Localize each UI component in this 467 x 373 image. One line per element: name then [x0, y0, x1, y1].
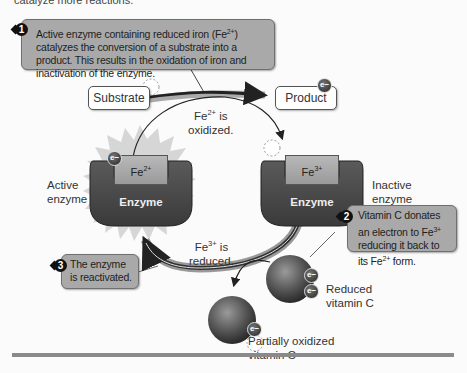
reduced-vitamin-c-label: Reducedvitamin C [326, 282, 374, 310]
callout-3-text: The enzyme is reactivated. [70, 258, 132, 283]
lost-electron-site [264, 140, 280, 156]
callout2-pointer [310, 232, 335, 257]
active-iron-slot: Fe2+ [114, 155, 168, 185]
callout-step-3: 3 The enzyme is reactivated. [61, 254, 139, 289]
active-enzyme-label: Activeenzyme [47, 178, 87, 206]
active-electron-icon: e− [107, 151, 122, 166]
callout-step-2: 2 Vitamin C donates an electron to Fe3+ … [347, 205, 457, 252]
product-electron-icon: e− [317, 78, 332, 93]
bottom-divider [12, 353, 454, 357]
substrate-box: Substrate [88, 86, 150, 110]
inactive-iron-slot: Fe3+ [285, 155, 339, 185]
caption-fragment: catalyze more reactions. [14, 0, 133, 6]
step-3-badge: 3 [54, 259, 67, 272]
step-1-badge: 1 [15, 23, 28, 36]
inactive-enzyme-label: Inactiveenzyme [372, 178, 412, 206]
fe3-reduced-label: Fe3+ isreduced. [189, 237, 234, 268]
fe2-oxidized-label: Fe2+ isoxidized. [188, 106, 233, 137]
active-enzyme-name: Enzyme [100, 196, 182, 208]
partially-oxidized-vitamin-c-label: Partially oxidizedvitamin C [248, 334, 334, 362]
callout1-pointer [190, 68, 205, 94]
inactive-enzyme-name: Enzyme [271, 196, 353, 208]
vitc-electron-icon-1: e− [304, 268, 319, 283]
callout-step-1: 1 Active enzyme containing reduced iron … [21, 19, 275, 70]
vitc-electron-icon-2: e− [304, 284, 319, 299]
step-2-badge: 2 [340, 210, 353, 223]
partial-vitc-electron-icon: e− [247, 322, 262, 337]
